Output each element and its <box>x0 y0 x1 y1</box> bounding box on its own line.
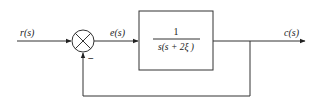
input-label: r(s) <box>20 27 35 39</box>
transfer-function-block <box>139 11 213 70</box>
feedback-sign: − <box>88 53 94 64</box>
tf-denominator: s(s + 2ξ ) <box>158 42 194 53</box>
block-diagram: r(s) − e(s) 1 s(s + 2ξ ) c(s) <box>0 0 318 102</box>
error-label: e(s) <box>110 27 126 39</box>
output-label: c(s) <box>284 27 300 39</box>
tf-numerator: 1 <box>174 26 179 37</box>
summing-junction <box>72 30 94 52</box>
